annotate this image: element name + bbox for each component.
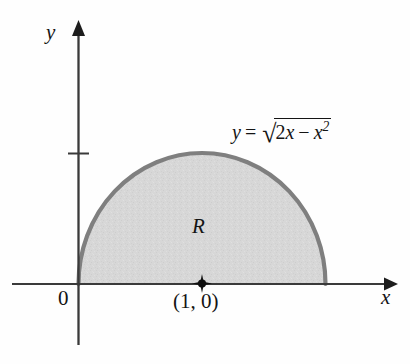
origin-label: 0	[58, 288, 69, 309]
radicand-coefficient: 2	[275, 121, 285, 143]
equation-expression: y=√2x−x2	[232, 118, 331, 147]
point-label: (1, 0)	[173, 291, 219, 312]
radicand-minus-sign: −	[294, 121, 313, 143]
y-axis	[72, 20, 85, 345]
y-axis-label: y	[46, 22, 55, 43]
figure-canvas: y x 0 R (1, 0) y=√2x−x2	[0, 0, 410, 364]
equation-lhs: y	[232, 121, 241, 143]
radicand-variable: x	[285, 121, 294, 143]
radicand-variable-2: x	[314, 121, 323, 143]
x-axis-label: x	[381, 287, 390, 308]
curve-equation-label: y=√2x−x2	[232, 118, 331, 147]
radical-group: √2x−x2	[260, 118, 331, 147]
equation-equals: =	[241, 121, 260, 143]
radicand-exponent: 2	[323, 119, 330, 134]
region-label-R: R	[192, 216, 205, 237]
radicand: 2x−x2	[274, 118, 331, 142]
